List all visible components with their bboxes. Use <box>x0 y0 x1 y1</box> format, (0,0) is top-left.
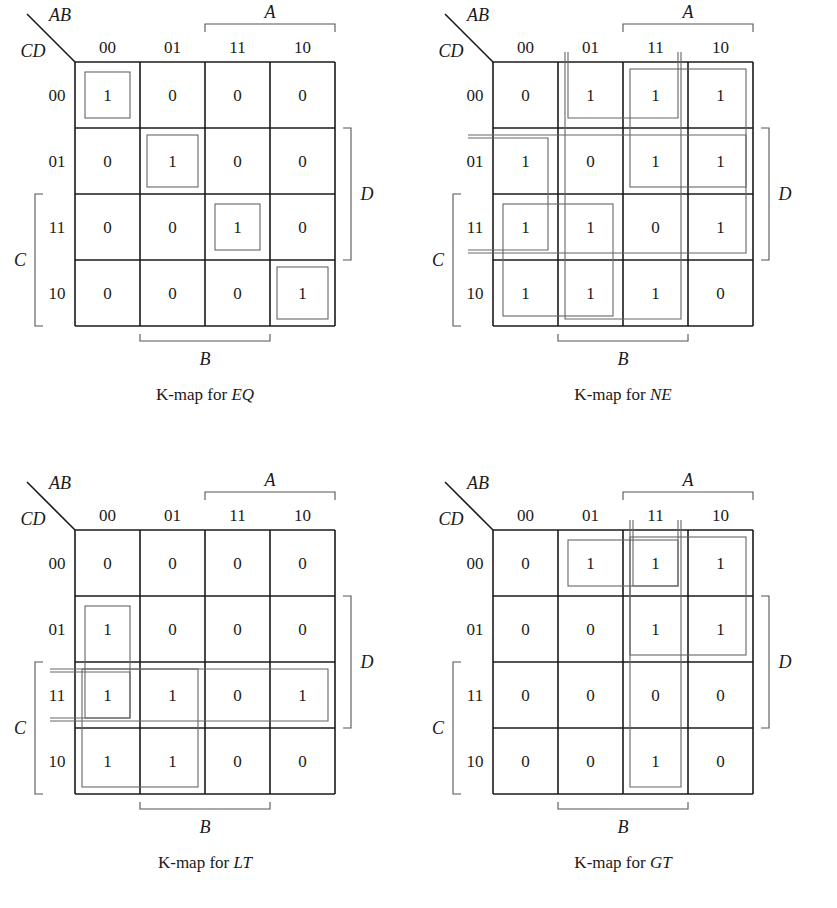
kmap-cell: 0 <box>586 686 595 705</box>
kmap-cell: 0 <box>233 620 242 639</box>
kmap-cell: 1 <box>586 218 595 237</box>
row-header: 10 <box>467 752 484 771</box>
row-var-label: CD <box>20 41 45 61</box>
kmap-cell: 1 <box>586 86 595 105</box>
kmap-cell: 0 <box>233 284 242 303</box>
kmap-cell: 1 <box>103 620 112 639</box>
col-header: 00 <box>99 38 116 57</box>
kmap-cell: 1 <box>103 752 112 771</box>
kmap-cell: 1 <box>103 86 112 105</box>
kmap-eq: ABCD0001111000011110ADCB1000010000100001… <box>0 0 419 454</box>
row-header: 11 <box>49 686 65 705</box>
kmap-ne: ABCD0001111000011110ADCB0111101111011110… <box>418 0 837 454</box>
bracket-label-a: A <box>264 2 277 22</box>
kmap-cell: 0 <box>233 152 242 171</box>
kmap-cell: 0 <box>233 554 242 573</box>
kmap-cell: 1 <box>586 554 595 573</box>
bracket-d <box>761 596 769 728</box>
bracket-label-d: D <box>360 184 374 204</box>
col-header: 11 <box>647 38 663 57</box>
kmap-caption: K-map for EQ <box>156 385 254 404</box>
row-var-label: CD <box>20 509 45 529</box>
kmap-cell: 0 <box>298 554 307 573</box>
kmap-cell: 1 <box>168 686 177 705</box>
kmap-cell: 1 <box>298 686 307 705</box>
kmap-cell: 0 <box>651 218 660 237</box>
bracket-b <box>558 334 688 341</box>
row-header: 01 <box>467 620 484 639</box>
row-var-label: CD <box>438 41 463 61</box>
row-header: 00 <box>467 554 484 573</box>
kmap-cell: 1 <box>716 86 725 105</box>
kmap-cell: 0 <box>168 284 177 303</box>
kmap-cell: 0 <box>103 284 112 303</box>
col-var-label: AB <box>466 5 489 25</box>
kmap-cell: 1 <box>168 152 177 171</box>
col-header: 10 <box>294 38 311 57</box>
kmap-cell: 0 <box>586 620 595 639</box>
col-header: 10 <box>294 506 311 525</box>
kmap-cell: 1 <box>521 284 530 303</box>
kmap-cell: 0 <box>586 152 595 171</box>
kmap-cell: 0 <box>103 554 112 573</box>
kmap-caption: K-map for GT <box>574 853 673 872</box>
kmap-cell: 0 <box>716 752 725 771</box>
kmap-cell: 0 <box>298 86 307 105</box>
kmap-cell: 1 <box>716 554 725 573</box>
kmap-cell: 0 <box>103 218 112 237</box>
col-header: 01 <box>164 38 181 57</box>
kmap-cell: 1 <box>521 152 530 171</box>
col-header: 11 <box>647 506 663 525</box>
bracket-a <box>205 24 335 32</box>
kmap-cell: 0 <box>233 686 242 705</box>
bracket-c <box>35 194 43 326</box>
bracket-d <box>761 128 769 260</box>
kmap-cell: 1 <box>168 752 177 771</box>
col-header: 00 <box>517 506 534 525</box>
bracket-label-a: A <box>682 2 695 22</box>
col-header: 00 <box>517 38 534 57</box>
kmap-cell: 1 <box>651 620 660 639</box>
kmap-cell: 1 <box>651 284 660 303</box>
row-header: 00 <box>49 554 66 573</box>
col-header: 10 <box>712 38 729 57</box>
row-header: 10 <box>49 752 66 771</box>
bracket-label-d: D <box>778 652 792 672</box>
kmap-cell: 0 <box>233 86 242 105</box>
kmap-ne-svg: ABCD0001111000011110ADCB0111101111011110… <box>418 0 837 454</box>
bracket-label-a: A <box>264 470 277 490</box>
row-header: 00 <box>49 86 66 105</box>
bracket-label-d: D <box>778 184 792 204</box>
kmap-cell: 0 <box>586 752 595 771</box>
kmap-cell: 1 <box>651 152 660 171</box>
col-var-label: AB <box>48 473 71 493</box>
bracket-label-c: C <box>14 718 27 738</box>
bracket-label-d: D <box>360 652 374 672</box>
bracket-label-c: C <box>14 250 27 270</box>
kmap-cell: 0 <box>716 284 725 303</box>
kmap-cell: 0 <box>521 554 530 573</box>
col-var-label: AB <box>466 473 489 493</box>
kmap-cell: 1 <box>233 218 242 237</box>
bracket-a <box>205 492 335 500</box>
bracket-label-a: A <box>682 470 695 490</box>
col-header: 10 <box>712 506 729 525</box>
col-header: 11 <box>229 38 245 57</box>
row-header: 01 <box>467 152 484 171</box>
kmap-cell: 0 <box>716 686 725 705</box>
kmap-caption: K-map for NE <box>574 385 672 404</box>
kmap-cell: 0 <box>521 686 530 705</box>
kmap-cell: 0 <box>298 620 307 639</box>
kmap-cell: 1 <box>586 284 595 303</box>
kmap-cell: 0 <box>298 752 307 771</box>
kmap-cell: 1 <box>103 686 112 705</box>
kmap-cell: 1 <box>651 752 660 771</box>
kmap-cell: 0 <box>233 752 242 771</box>
kmap-cell: 1 <box>716 152 725 171</box>
row-header: 00 <box>467 86 484 105</box>
row-header: 10 <box>49 284 66 303</box>
bracket-label-b: B <box>200 349 211 369</box>
kmap-gt: ABCD0001111000011110ADCB0111001100000010… <box>418 454 837 908</box>
kmap-cell: 0 <box>298 218 307 237</box>
bracket-d <box>343 596 351 728</box>
